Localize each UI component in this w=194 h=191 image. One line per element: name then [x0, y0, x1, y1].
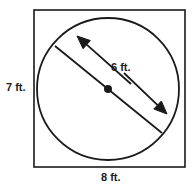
left-dimension-label: 7 ft.: [6, 81, 26, 93]
geometry-figure: 7 ft. 8 ft. 6 ft.: [0, 0, 194, 191]
figure-canvas: [0, 0, 194, 191]
circle-center-point: [104, 85, 112, 93]
diameter-dimension-label: 6 ft.: [111, 61, 131, 73]
dimension-arrow-lower-right-shaft: [124, 73, 158, 105]
bottom-dimension-label: 8 ft.: [101, 171, 121, 183]
